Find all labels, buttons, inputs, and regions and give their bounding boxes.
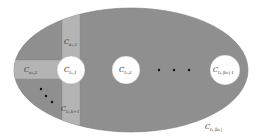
circle-2-label-sub: t₁,2: [124, 70, 132, 75]
label-outer-region: Ct₁,|b₁|: [205, 123, 222, 132]
circle-1-label-sub: t₁,1: [69, 70, 76, 75]
hole-circle-1: Ct₁,1: [57, 56, 85, 84]
region-decomposition-diagram: Ct₁,1 Ct₁,2 Ct₁,|b₁|-1 Ce₁,1 Ce₁,2 Ct₁,k…: [0, 0, 262, 140]
hole-circle-last: Ct₁,|b₁|-1: [210, 55, 240, 85]
circle-last-label-sub: t₁,|b₁|-1: [218, 70, 234, 75]
hole-circle-2: Ct₁,2: [112, 56, 140, 84]
